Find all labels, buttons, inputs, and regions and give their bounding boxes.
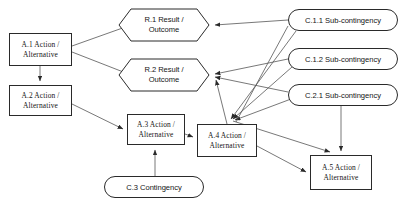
node-a4-label: A.4 Action / Alternative xyxy=(208,131,246,150)
edge-c12-r2 xyxy=(215,59,288,74)
node-c3-label: C.3 Contingency xyxy=(126,183,181,192)
hexagon-shape-r1 xyxy=(118,8,210,42)
edge-c11-r1 xyxy=(215,20,288,25)
node-a4-action-alternative[interactable]: A.4 Action / Alternative xyxy=(197,124,257,157)
node-a2-action-alternative[interactable]: A.2 Action / Alternative xyxy=(9,85,72,116)
edge-a4-r2 xyxy=(216,80,227,124)
node-c12-sub-contingency[interactable]: C.1.2 Sub-contingency xyxy=(288,48,398,70)
node-a1-label: A.1 Action / Alternative xyxy=(21,40,59,59)
influence-diagram: A.1 Action / Alternative A.2 Action / Al… xyxy=(0,0,398,209)
node-c12-label: C.1.2 Sub-contingency xyxy=(305,55,381,64)
edge-c11-a4 xyxy=(231,31,296,119)
node-a5-label: A.5 Action / Alternative xyxy=(322,163,360,182)
node-a2-label: A.2 Action / Alternative xyxy=(21,91,59,110)
edge-c11-a5 xyxy=(236,26,288,122)
node-a5-action-alternative[interactable]: A.5 Action / Alternative xyxy=(310,155,372,190)
hexagon-shape-r2 xyxy=(118,58,210,92)
node-r1-result-outcome[interactable]: R.1 Result / Outcome xyxy=(118,8,210,42)
node-a3-action-alternative[interactable]: A.3 Action / Alternative xyxy=(127,114,185,145)
node-c21-label: C.2.1 Sub-contingency xyxy=(305,91,381,100)
node-a1-action-alternative[interactable]: A.1 Action / Alternative xyxy=(9,33,72,66)
edge-c21-r2 xyxy=(215,77,288,92)
node-c11-sub-contingency[interactable]: C.1.1 Sub-contingency xyxy=(288,9,398,31)
edge-a2-a3 xyxy=(72,104,123,129)
node-c3-contingency[interactable]: C.3 Contingency xyxy=(104,176,204,198)
edge-a3-a4 xyxy=(185,134,193,137)
node-a3-label: A.3 Action / Alternative xyxy=(137,120,175,139)
node-c11-label: C.1.1 Sub-contingency xyxy=(305,16,381,25)
edge-a4-a5 xyxy=(257,146,306,172)
node-r2-result-outcome[interactable]: R.2 Result / Outcome xyxy=(118,58,210,92)
node-c21-sub-contingency[interactable]: C.2.1 Sub-contingency xyxy=(288,84,398,106)
